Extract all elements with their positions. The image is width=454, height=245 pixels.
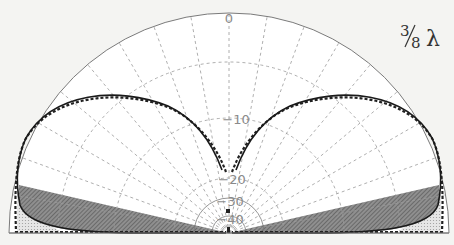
null-marker	[227, 227, 230, 233]
title-denominator: 8	[411, 34, 421, 52]
radial-tick-20: −20	[218, 172, 245, 187]
chart-title: 3 8 λ	[400, 22, 440, 52]
title-lambda: λ	[426, 26, 440, 51]
title-numerator: 3	[400, 22, 410, 40]
radial-tick-10: −10	[222, 112, 249, 127]
polar-radiation-pattern-chart: 0 −10 −20 −30 −40 3 8 λ	[0, 0, 454, 245]
radial-tick-40: −40	[216, 212, 243, 227]
radial-tick-0: 0	[225, 11, 233, 26]
radial-tick-30: −30	[216, 194, 243, 209]
